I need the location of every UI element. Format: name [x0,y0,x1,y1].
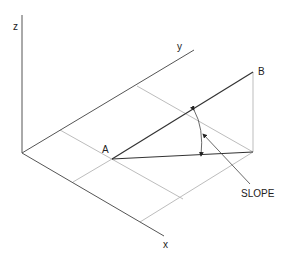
point-b-label: B [258,66,265,77]
construction-line [137,86,253,152]
line-ab [112,72,253,159]
slope-leader [203,134,250,184]
construction-line [73,159,112,182]
point-a-label: A [102,144,109,155]
slope-label: SLOPE [241,188,275,199]
y-axis [22,50,194,153]
z-axis-label: z [13,21,18,32]
x-axis-label: x [163,239,168,250]
y-axis-label: y [177,41,182,52]
construction-line [60,130,183,199]
x-axis [22,153,164,236]
construction-line [140,152,253,222]
slope-diagram: z y x A B SLOPE [0,0,281,261]
slope-angle-arc [194,110,202,156]
line-a-projection [112,152,253,159]
